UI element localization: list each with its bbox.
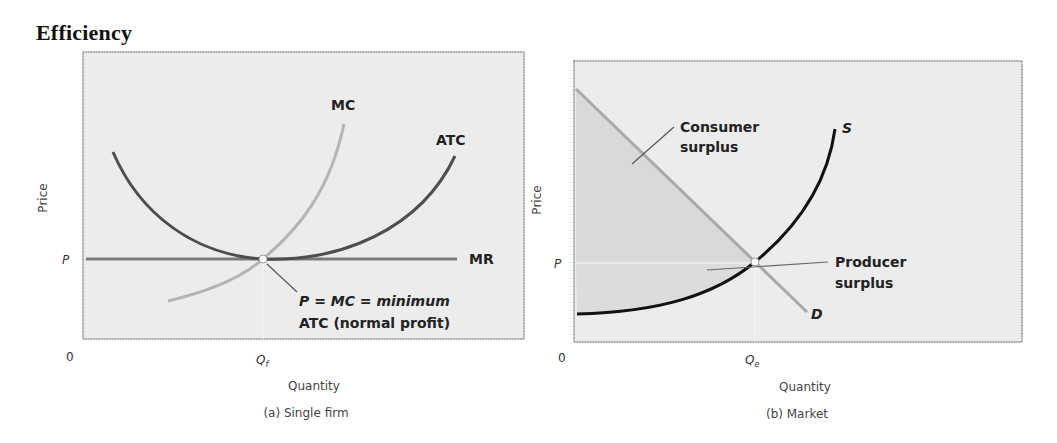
x-axis-label-a: Quantity [288, 379, 340, 393]
caption-a: (a) Single firm [263, 406, 348, 420]
qf-tick: Qf [256, 353, 269, 369]
origin-b: 0 [558, 351, 566, 365]
mc-label: MC [331, 97, 355, 113]
supply-label: S [842, 120, 852, 136]
efficiency-figure: MC ATC MR P = MC = minimum ATC (normal p… [0, 0, 1057, 443]
atc-label: ATC [436, 132, 466, 148]
qe-tick: Qe [745, 353, 759, 369]
note-line-1: P = MC = minimum [299, 293, 450, 309]
demand-label: D [811, 306, 823, 322]
panel-market: S D Consumer surplus Producer surplus Pr… [530, 61, 1022, 421]
price-tick-a: P [62, 253, 70, 267]
producer-surplus-label-2: surplus [835, 275, 893, 291]
intersection-point-a [259, 255, 267, 263]
x-axis-label-b: Quantity [779, 380, 831, 394]
y-axis-label-b: Price [530, 185, 544, 214]
panel-single-firm: MC ATC MR P = MC = minimum ATC (normal p… [36, 52, 524, 420]
producer-surplus-label-1: Producer [835, 254, 907, 270]
origin-a: 0 [66, 350, 74, 364]
price-tick-b: P [554, 257, 562, 271]
consumer-surplus-label-1: Consumer [680, 119, 759, 135]
y-axis-label-a: Price [36, 183, 50, 212]
note-line-2: ATC (normal profit) [299, 315, 450, 331]
mr-label: MR [469, 251, 494, 267]
equilibrium-point [751, 258, 759, 266]
consumer-surplus-label-2: surplus [680, 139, 738, 155]
caption-b: (b) Market [766, 407, 828, 421]
